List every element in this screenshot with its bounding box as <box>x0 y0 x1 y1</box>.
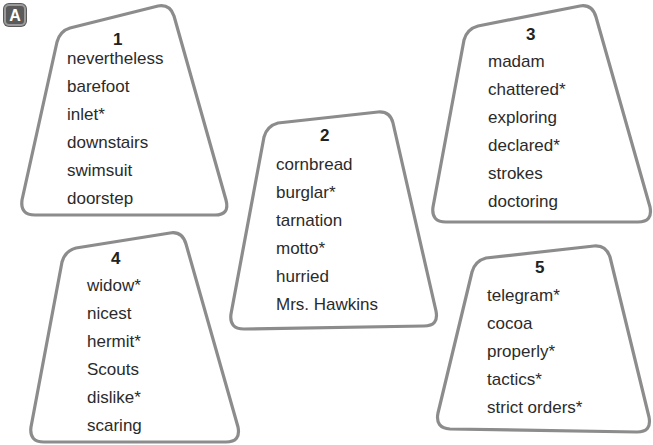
word-item: Scouts <box>87 356 142 384</box>
word-list: cornbread burglar* tarnation motto* hurr… <box>276 151 378 319</box>
word-item: nicest <box>87 300 142 328</box>
word-item: telegram* <box>487 282 582 310</box>
card-number: 2 <box>320 126 329 146</box>
word-list: madam chattered* exploring declared* str… <box>488 48 566 216</box>
word-item: strict orders* <box>487 394 582 422</box>
card-number: 3 <box>526 25 535 45</box>
word-item: motto* <box>276 235 378 263</box>
word-item: doctoring <box>488 188 566 216</box>
card-number: 4 <box>111 249 120 269</box>
word-item: Mrs. Hawkins <box>276 291 378 319</box>
word-list: nevertheless barefoot inlet* downstairs … <box>67 45 163 213</box>
word-item: doorstep <box>67 185 163 213</box>
word-item: exploring <box>488 104 566 132</box>
card-number: 5 <box>535 258 544 278</box>
word-item: hermit* <box>87 328 142 356</box>
word-item: dislike* <box>87 384 142 412</box>
word-item: scaring <box>87 412 142 440</box>
word-item: cocoa <box>487 310 582 338</box>
word-item: madam <box>488 48 566 76</box>
word-item: properly* <box>487 338 582 366</box>
word-item: strokes <box>488 160 566 188</box>
word-item: chattered* <box>488 76 566 104</box>
word-item: barefoot <box>67 73 163 101</box>
word-item: cornbread <box>276 151 378 179</box>
word-item: swimsuit <box>67 157 163 185</box>
word-list: telegram* cocoa properly* tactics* stric… <box>487 282 582 422</box>
word-item: declared* <box>488 132 566 160</box>
word-item: hurried <box>276 263 378 291</box>
word-item: inlet* <box>67 101 163 129</box>
word-item: burglar* <box>276 179 378 207</box>
word-item: widow* <box>87 272 142 300</box>
word-list: widow* nicest hermit* Scouts dislike* sc… <box>87 272 142 440</box>
word-item: downstairs <box>67 129 163 157</box>
section-badge: A <box>4 4 26 26</box>
word-item: nevertheless <box>67 45 163 73</box>
word-item: tactics* <box>487 366 582 394</box>
word-item: tarnation <box>276 207 378 235</box>
